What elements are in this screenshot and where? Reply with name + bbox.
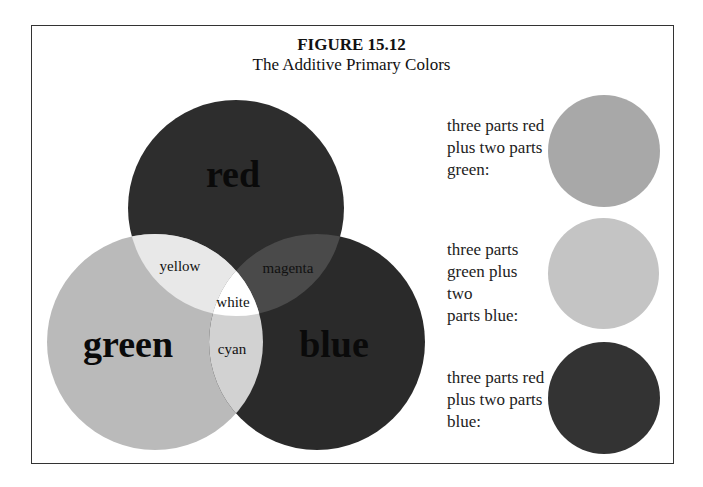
label-magenta: magenta bbox=[263, 260, 314, 277]
desc-line: parts blue: bbox=[447, 305, 547, 327]
mixture-swatch-green-blue bbox=[548, 218, 659, 329]
desc-line: three parts red bbox=[447, 367, 547, 389]
desc-line: three parts bbox=[447, 239, 547, 261]
desc-line: plus two parts bbox=[447, 137, 547, 159]
mixture-swatch-red-green bbox=[548, 95, 660, 207]
mixture-description-2: three parts green plus two parts blue: bbox=[447, 239, 547, 327]
label-yellow: yellow bbox=[160, 258, 201, 275]
label-green: green bbox=[83, 322, 173, 366]
desc-line: green: bbox=[447, 159, 547, 181]
mixture-description-1: three parts red plus two parts green: bbox=[447, 115, 547, 181]
mixture-description-3: three parts red plus two parts blue: bbox=[447, 367, 547, 433]
mixture-swatch-red-blue bbox=[548, 342, 660, 454]
label-blue: blue bbox=[299, 322, 369, 366]
desc-line: blue: bbox=[447, 411, 547, 433]
label-red: red bbox=[206, 152, 260, 196]
desc-line: three parts red bbox=[447, 115, 547, 137]
label-cyan: cyan bbox=[218, 341, 246, 358]
desc-line: green plus two bbox=[447, 261, 547, 305]
label-white: white bbox=[216, 294, 249, 311]
desc-line: plus two parts bbox=[447, 389, 547, 411]
